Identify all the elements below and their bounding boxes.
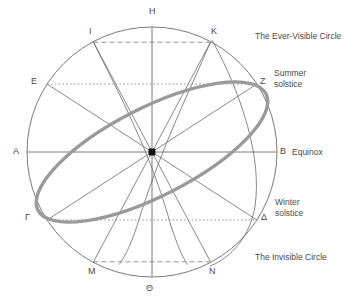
point-label-Z: Z (260, 77, 266, 86)
annotation-invisible-circle: The Invisible Circle (255, 252, 327, 263)
annotation-ever-visible-circle: The Ever-Visible Circle (255, 31, 341, 42)
oblique-arc-right (119, 42, 211, 264)
celestial-sphere-diagram: H I K E Z A B Γ Δ M N Θ The Ever-Visible… (0, 0, 345, 305)
point-label-E: E (31, 77, 37, 86)
annotation-equinox: Equinox (292, 147, 323, 158)
point-label-N: N (209, 267, 216, 276)
point-label-M: M (88, 267, 96, 276)
annotation-winter-solstice: Winter solstice (275, 197, 303, 218)
oblique-arc-left (94, 42, 188, 264)
point-label-K: K (211, 27, 217, 36)
point-label-A: A (13, 147, 19, 156)
point-label-I: I (89, 27, 92, 36)
point-label-B: B (280, 147, 286, 156)
annotation-summer-solstice: Summer solstice (274, 68, 306, 89)
centre-point-dot (149, 149, 156, 156)
point-label-H: H (149, 7, 156, 16)
point-label-delta: Δ (261, 213, 267, 222)
point-label-theta: Θ (146, 284, 153, 293)
point-label-gamma: Γ (25, 213, 30, 222)
